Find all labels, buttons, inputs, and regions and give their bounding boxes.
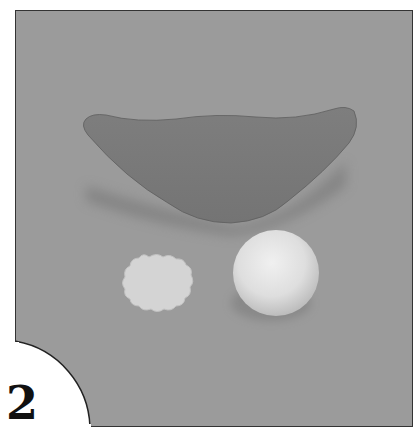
scalloped-disc: [123, 255, 193, 312]
photo-frame: [15, 10, 413, 427]
photo-scene: [16, 11, 413, 427]
sphere: [233, 230, 319, 316]
step-number: 2: [6, 380, 38, 426]
